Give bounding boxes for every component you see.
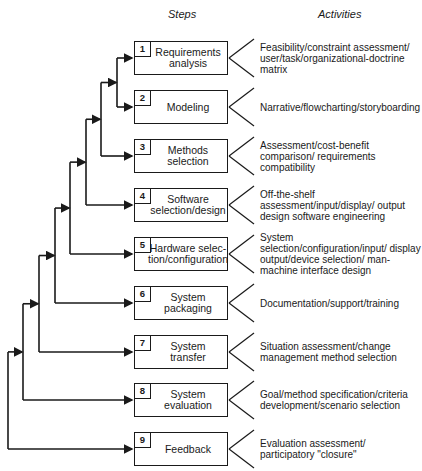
step-box-1: 1Requirements analysis	[134, 41, 228, 75]
activity-text-2: Narrative/flowcharting/storyboarding	[260, 90, 422, 124]
step-label: System packaging	[151, 287, 225, 319]
step-box-2: 2Modeling	[134, 90, 228, 124]
step-box-7: 7System transfer	[134, 335, 228, 369]
step-number: 8	[134, 383, 151, 399]
step-box-3: 3Methods selection	[134, 139, 228, 173]
step-number: 2	[134, 90, 151, 106]
step-label: Feedback	[151, 433, 225, 465]
step-number: 6	[134, 286, 151, 302]
activity-text-9: Evaluation assessment/ participatory "cl…	[260, 432, 422, 466]
activity-text-8: Goal/method specification/criteria devel…	[260, 383, 422, 417]
step-number: 3	[134, 139, 151, 155]
step-box-9: 9Feedback	[134, 432, 228, 466]
activity-text-7: Situation assessment/change management m…	[260, 335, 422, 369]
activity-text-1: Feasibility/constraint assessment/ user/…	[260, 41, 422, 75]
step-label: System evaluation	[151, 384, 225, 416]
activity-text-5: System selection/configuration/input/ di…	[260, 237, 422, 271]
step-number: 4	[134, 188, 151, 204]
step-box-5: 5Hardware selec- tion/configuration	[134, 237, 228, 271]
step-number: 1	[134, 41, 151, 57]
step-label: Requirements analysis	[151, 42, 225, 74]
step-label: Hardware selec- tion/configuration	[151, 238, 225, 270]
step-number: 7	[134, 335, 151, 351]
step-box-6: 6System packaging	[134, 286, 228, 320]
step-label: Methods selection	[151, 140, 225, 172]
activity-text-6: Documentation/support/training	[260, 286, 422, 320]
step-label: Software selection/design	[151, 189, 225, 221]
activity-text-4: Off-the-shelf assessment/input/display/ …	[260, 188, 422, 222]
activity-text-3: Assessment/cost-benefit comparison/ requ…	[260, 139, 422, 173]
step-number: 9	[134, 432, 151, 448]
step-box-4: 4Software selection/design	[134, 188, 228, 222]
step-box-8: 8System evaluation	[134, 383, 228, 417]
step-label: System transfer	[151, 336, 225, 368]
step-label: Modeling	[151, 91, 225, 123]
